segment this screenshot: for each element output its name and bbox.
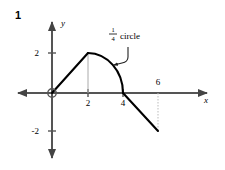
- curve-falling-line: [123, 93, 158, 131]
- x-tick-label-2: 2: [86, 98, 91, 108]
- fraction-numerator: 1: [111, 26, 114, 33]
- curve-quarter-circle-arc: [88, 53, 123, 93]
- y-tick-label-minus-2: -2: [32, 126, 40, 136]
- graph-plot: y x 2 -2 2 4 6 1 4 circle: [0, 0, 225, 170]
- x-tick-label-4: 4: [121, 98, 126, 108]
- y-axis-label: y: [60, 18, 65, 28]
- quarter-circle-annotation: 1 4 circle: [109, 26, 140, 42]
- annotation-leader-arrow: [114, 47, 128, 65]
- x-axis-label: x: [203, 95, 208, 105]
- figure-container: 1 y x 2 -2 2 4 6: [0, 0, 225, 170]
- y-tick-label-2: 2: [35, 48, 40, 58]
- x-tick-label-6: 6: [156, 77, 161, 87]
- annotation-word: circle: [120, 31, 140, 41]
- fraction-denominator: 4: [111, 35, 115, 42]
- curve-rising-line: [52, 53, 88, 93]
